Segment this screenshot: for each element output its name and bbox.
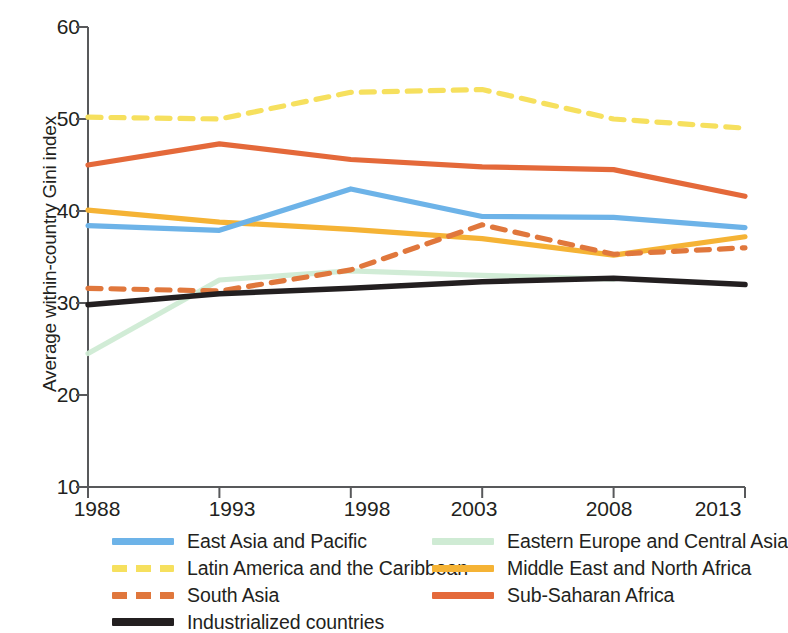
legend-label: Latin America and the Caribbean (187, 557, 468, 580)
legend-item[interactable]: Latin America and the Caribbean (112, 555, 468, 581)
legend-label: South Asia (187, 584, 279, 607)
legend-column-left: East Asia and PacificLatin America and t… (112, 528, 468, 633)
legend-label: Sub-Saharan Africa (507, 584, 674, 607)
legend-swatch (112, 618, 174, 626)
series-line (88, 189, 745, 230)
legend-swatch (112, 592, 174, 599)
legend-label: East Asia and Pacific (187, 530, 367, 553)
legend-swatch (432, 565, 494, 572)
legend-label: Industrialized countries (187, 611, 384, 633)
series-line (88, 271, 614, 354)
legend-item[interactable]: South Asia (112, 582, 468, 608)
legend-label: Eastern Europe and Central Asia (507, 530, 788, 553)
legend-column-right: Eastern Europe and Central AsiaMiddle Ea… (432, 528, 788, 609)
legend-item[interactable]: Industrialized countries (112, 609, 468, 633)
legend-item[interactable]: Eastern Europe and Central Asia (432, 528, 788, 554)
legend-label: Middle East and North Africa (507, 557, 751, 580)
chart-legend: East Asia and PacificLatin America and t… (0, 528, 757, 633)
legend-item[interactable]: Middle East and North Africa (432, 555, 788, 581)
legend-swatch (432, 592, 494, 599)
legend-swatch (432, 538, 494, 545)
legend-item[interactable]: Sub-Saharan Africa (432, 582, 788, 608)
tick-marks (76, 27, 745, 498)
series-lines (88, 90, 745, 354)
series-line (88, 144, 745, 196)
legend-swatch (112, 565, 174, 572)
series-line (88, 90, 745, 129)
legend-item[interactable]: East Asia and Pacific (112, 528, 468, 554)
legend-swatch (112, 538, 174, 545)
axis-lines (88, 27, 745, 487)
